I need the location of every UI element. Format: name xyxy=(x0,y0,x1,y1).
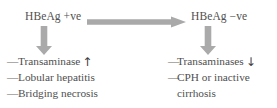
list-item-label: Bridging necrosis xyxy=(18,87,98,99)
list-item-label: Transaminase xyxy=(18,55,80,67)
trend-up-icon: ↑ xyxy=(82,55,92,71)
bullet-dash: — xyxy=(7,54,18,70)
list-item-label: Lobular hepatitis xyxy=(18,71,95,83)
list-item-label: Transaminases xyxy=(177,55,244,67)
trend-down-icon: ↓ xyxy=(246,55,256,71)
list-item: —Bridging necrosis xyxy=(7,86,139,102)
list-item-label: CPH or inactive xyxy=(177,71,250,83)
list-item-label-continued: cirrhosis xyxy=(168,86,277,102)
arrow-down-icon-left xyxy=(36,26,52,55)
list-item: —Lobular hepatitis xyxy=(7,70,139,86)
findings-list-hbeag-positive: —Transaminase↑ —Lobular hepatitis —Bridg… xyxy=(7,54,139,101)
node-label-hbeag-positive: HBeAg +ve xyxy=(25,10,81,23)
bullet-dash: — xyxy=(7,70,18,86)
bullet-dash: — xyxy=(168,70,177,86)
list-item: —CPH or inactive cirrhosis xyxy=(168,70,277,102)
bullet-dash: — xyxy=(168,54,177,70)
hbeag-flow-diagram: HBeAg +ve HBeAg −ve —Transaminase↑ —Lobu… xyxy=(0,0,277,108)
arrow-right-icon xyxy=(87,14,186,26)
list-item: —Transaminase↑ xyxy=(7,54,139,70)
list-item: —Transaminases↓ xyxy=(168,54,277,70)
findings-list-hbeag-negative: —Transaminases↓ —CPH or inactive cirrhos… xyxy=(168,54,277,101)
node-label-hbeag-negative: HBeAg −ve xyxy=(191,10,247,23)
bullet-dash: — xyxy=(7,86,18,102)
arrow-down-icon-right xyxy=(200,26,216,55)
